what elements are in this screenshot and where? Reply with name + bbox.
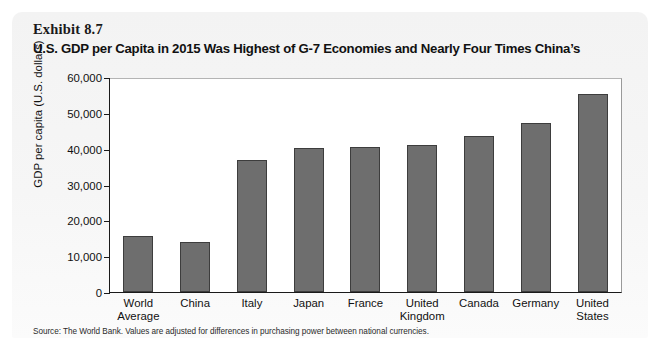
x-axis-tick-label-line: Kingdom bbox=[394, 310, 450, 323]
y-axis-tick-label: 0 bbox=[36, 287, 102, 299]
bar bbox=[521, 123, 551, 292]
bar bbox=[123, 236, 153, 292]
x-axis-tick-label: Italy bbox=[224, 297, 280, 324]
bar-chart: GDP per capita (U.S. dollars) 010,00020,… bbox=[0, 0, 660, 350]
bar bbox=[407, 145, 437, 292]
x-axis-tick-label: WorldAverage bbox=[110, 297, 166, 324]
bar bbox=[294, 148, 324, 292]
x-axis-tick-label-line: United bbox=[565, 297, 621, 310]
x-axis-tick-label: China bbox=[167, 297, 223, 324]
x-axis-tick-label-line: Average bbox=[110, 310, 166, 323]
bar-series bbox=[110, 78, 621, 292]
y-axis-tick-label: 30,000 bbox=[36, 180, 102, 192]
y-axis-tick-mark bbox=[104, 293, 110, 294]
x-axis-tick-label-line: China bbox=[167, 297, 223, 310]
bar bbox=[350, 147, 380, 292]
x-axis-tick-label: Japan bbox=[281, 297, 337, 324]
x-axis-tick-label-line: France bbox=[337, 297, 393, 310]
source-note: Source: The World Bank. Values are adjus… bbox=[33, 327, 429, 336]
x-axis-tick-labels: WorldAverageChinaItalyJapanFranceUnitedK… bbox=[110, 297, 621, 324]
x-axis-tick-label: Canada bbox=[451, 297, 507, 324]
bar bbox=[578, 94, 608, 292]
y-axis-tick-label: 60,000 bbox=[36, 72, 102, 84]
y-axis-tick-label: 20,000 bbox=[36, 215, 102, 227]
x-axis-tick-label-line: World bbox=[110, 297, 166, 310]
x-axis-tick-label: UnitedStates bbox=[565, 297, 621, 324]
bar bbox=[464, 136, 494, 292]
x-axis-tick-label-line: Italy bbox=[224, 297, 280, 310]
x-axis-tick-label-line: Japan bbox=[281, 297, 337, 310]
y-axis-tick-label: 10,000 bbox=[36, 251, 102, 263]
x-axis-tick-label-line: Germany bbox=[508, 297, 564, 310]
x-axis-tick-label: France bbox=[337, 297, 393, 324]
bar bbox=[180, 242, 210, 292]
y-axis-tick-labels: 010,00020,00030,00040,00050,00060,000 bbox=[36, 78, 102, 293]
x-axis-tick-label-line: United bbox=[394, 297, 450, 310]
bar bbox=[237, 160, 267, 292]
y-axis-tick-label: 50,000 bbox=[36, 108, 102, 120]
x-axis-tick-label-line: Canada bbox=[451, 297, 507, 310]
y-axis-tick-label: 40,000 bbox=[36, 144, 102, 156]
x-axis-tick-label-line: States bbox=[565, 310, 621, 323]
x-axis-tick-label: UnitedKingdom bbox=[394, 297, 450, 324]
x-axis-tick-label: Germany bbox=[508, 297, 564, 324]
